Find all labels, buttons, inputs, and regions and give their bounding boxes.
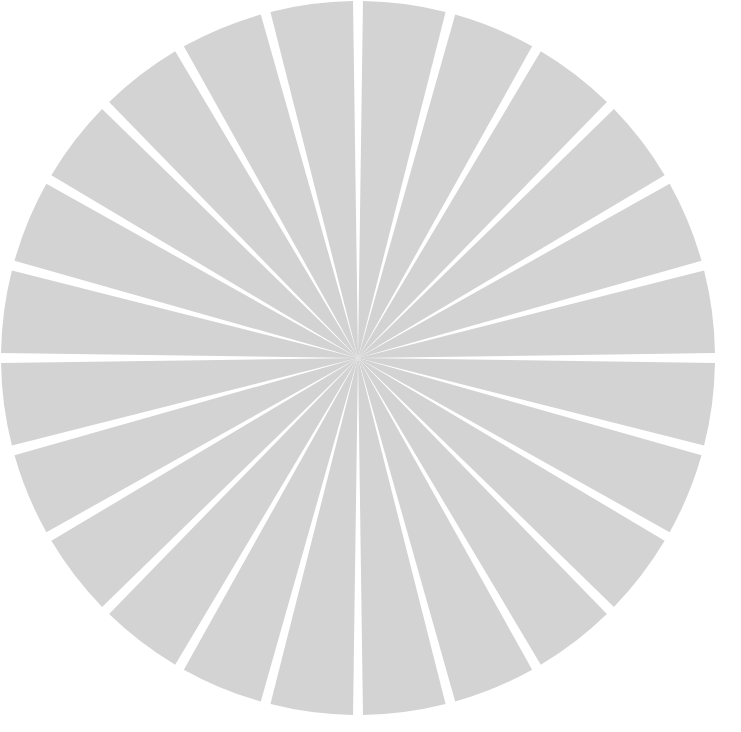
pie-chart-svg — [0, 0, 741, 732]
pie-chart-container — [0, 0, 741, 732]
